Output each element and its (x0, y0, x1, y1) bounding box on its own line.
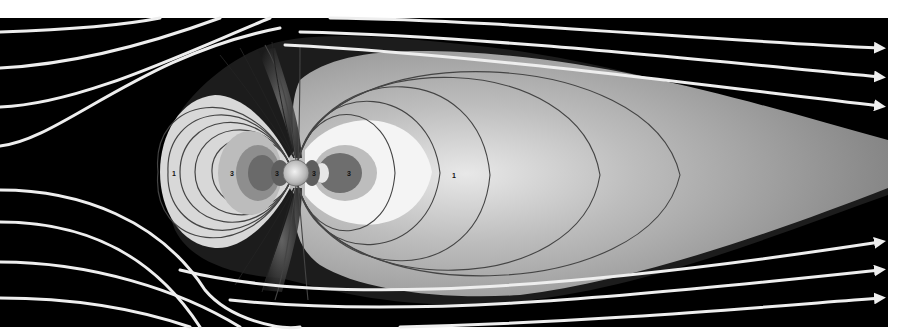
earth (283, 160, 309, 186)
zone-label-nightside-inner-2: 3 (347, 170, 351, 177)
magnetosphere-diagram: 1 3 3 3 3 1 (0, 0, 911, 334)
zone-label-nightside-outer: 1 (452, 172, 456, 179)
zone-label-nightside-inner-1: 3 (312, 170, 316, 177)
zone-label-dayside-outer: 1 (172, 170, 176, 177)
zone-label-dayside-inner-2: 3 (275, 170, 279, 177)
zone-label-dayside-inner-1: 3 (230, 170, 234, 177)
